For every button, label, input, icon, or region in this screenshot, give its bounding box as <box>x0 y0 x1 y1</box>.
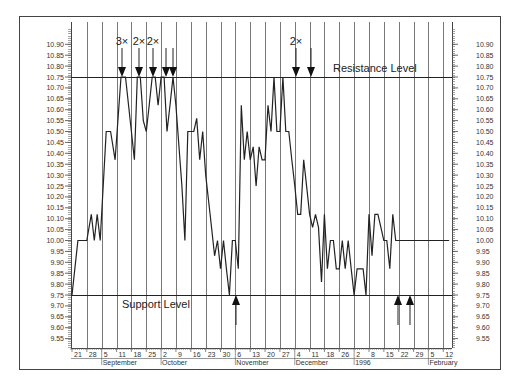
touch-count-label: 2× <box>133 35 146 47</box>
support-resistance-chart: 10.9010.8510.8010.7510.7010.6510.6010.55… <box>0 0 518 387</box>
y-tick-label-right: 10.45 <box>476 139 494 146</box>
y-tick-label-right: 10.70 <box>476 84 494 91</box>
x-tick-label: 15 <box>386 351 394 358</box>
y-tick-label-left: 10.85 <box>46 52 64 59</box>
y-tick-label-right: 10.30 <box>476 172 494 179</box>
y-tick-label-right: 10.40 <box>476 150 494 157</box>
y-tick-label-right: 9.65 <box>476 313 490 320</box>
y-tick-label-right: 10.15 <box>476 204 494 211</box>
y-tick-label-left: 9.90 <box>50 259 64 266</box>
y-tick-label-right: 9.75 <box>476 292 490 299</box>
x-tick-label: 11 <box>312 351 319 358</box>
y-tick-label-right: 10.65 <box>476 95 494 102</box>
y-tick-label-left: 9.75 <box>50 292 64 299</box>
y-tick-label-right: 9.60 <box>476 324 490 331</box>
y-tick-label-left: 9.55 <box>50 335 64 342</box>
x-tick-label: 18 <box>326 351 334 358</box>
x-tick-label: 22 <box>401 351 409 358</box>
x-tick-label: 11 <box>119 351 126 358</box>
y-tick-label-right: 10.85 <box>476 52 494 59</box>
y-tick-label-left: 10.35 <box>46 161 64 168</box>
month-label: September <box>103 359 138 367</box>
y-tick-label-left: 10.90 <box>46 41 64 48</box>
touch-count-label: 3× <box>116 35 129 47</box>
x-tick-label: 13 <box>252 351 260 358</box>
y-tick-label-right: 9.80 <box>476 281 490 288</box>
y-tick-label-left: 10.80 <box>46 63 64 70</box>
x-tick-label: 12 <box>445 351 453 358</box>
y-tick-label-right: 9.85 <box>476 270 490 277</box>
x-tick-label: 9 <box>178 351 182 358</box>
y-tick-label-left: 10.20 <box>46 193 64 200</box>
x-tick-label: 18 <box>133 351 141 358</box>
touch-count-label: 2× <box>290 35 303 47</box>
y-tick-label-left: 10.45 <box>46 139 64 146</box>
y-tick-label-left: 10.60 <box>46 106 64 113</box>
month-label: November <box>236 359 269 366</box>
y-tick-label-left: 9.70 <box>50 302 64 309</box>
y-tick-label-left: 10.00 <box>46 237 64 244</box>
x-tick-label: 26 <box>341 351 349 358</box>
x-tick-label: 27 <box>282 351 290 358</box>
y-tick-label-right: 10.10 <box>476 215 494 222</box>
x-tick-label: 8 <box>371 351 375 358</box>
y-tick-label-left: 10.55 <box>46 117 64 124</box>
y-tick-label-left: 10.40 <box>46 150 64 157</box>
touch-count-label: 2× <box>147 35 160 47</box>
y-tick-label-left: 10.70 <box>46 84 64 91</box>
y-tick-label-left: 10.05 <box>46 226 64 233</box>
y-tick-label-left: 9.80 <box>50 281 64 288</box>
x-tick-label: 28 <box>89 351 97 358</box>
y-tick-label-left: 9.60 <box>50 324 64 331</box>
y-tick-label-left: 9.85 <box>50 270 64 277</box>
y-tick-label-left: 10.10 <box>46 215 64 222</box>
x-tick-label: 5 <box>430 351 434 358</box>
support-level-label: Support Level <box>122 298 190 310</box>
x-tick-label: 30 <box>223 351 231 358</box>
y-tick-label-right: 10.90 <box>476 41 494 48</box>
y-tick-label-right: 9.95 <box>476 248 490 255</box>
y-tick-label-left: 10.75 <box>46 74 64 81</box>
x-tick-label: 21 <box>74 351 82 358</box>
x-tick-label: 6 <box>237 351 241 358</box>
x-tick-label: 16 <box>193 351 201 358</box>
y-tick-label-right: 10.80 <box>476 63 494 70</box>
y-tick-label-left: 10.15 <box>46 204 64 211</box>
y-tick-label-left: 10.50 <box>46 128 64 135</box>
month-label: December <box>296 359 329 366</box>
resistance-level-label: Resistance Level <box>333 62 417 74</box>
month-label: 1996 <box>355 359 371 366</box>
y-tick-label-left: 10.65 <box>46 95 64 102</box>
x-tick-label: 2 <box>163 351 167 358</box>
y-tick-label-right: 10.75 <box>476 74 494 81</box>
y-tick-label-right: 10.00 <box>476 237 494 244</box>
y-tick-label-right: 10.50 <box>476 128 494 135</box>
month-label: October <box>162 359 188 366</box>
y-tick-label-right: 10.05 <box>476 226 494 233</box>
x-tick-label: 4 <box>297 351 301 358</box>
y-tick-label-right: 9.90 <box>476 259 490 266</box>
y-tick-label-right: 10.35 <box>476 161 494 168</box>
y-tick-label-right: 10.55 <box>476 117 494 124</box>
x-tick-label: 20 <box>267 351 275 358</box>
y-tick-label-right: 10.25 <box>476 183 494 190</box>
y-tick-label-right: 9.70 <box>476 302 490 309</box>
x-tick-label: 25 <box>148 351 156 358</box>
x-tick-label: 5 <box>104 351 108 358</box>
x-tick-label: 29 <box>416 351 424 358</box>
y-tick-label-left: 9.65 <box>50 313 64 320</box>
y-tick-label-left: 10.30 <box>46 172 64 179</box>
month-label: February <box>429 359 458 367</box>
y-tick-label-right: 10.20 <box>476 193 494 200</box>
y-tick-label-right: 10.60 <box>476 106 494 113</box>
y-tick-label-right: 9.55 <box>476 335 490 342</box>
x-tick-label: 2 <box>356 351 360 358</box>
x-tick-label: 23 <box>208 351 216 358</box>
y-tick-label-left: 10.25 <box>46 183 64 190</box>
y-tick-label-left: 9.95 <box>50 248 64 255</box>
